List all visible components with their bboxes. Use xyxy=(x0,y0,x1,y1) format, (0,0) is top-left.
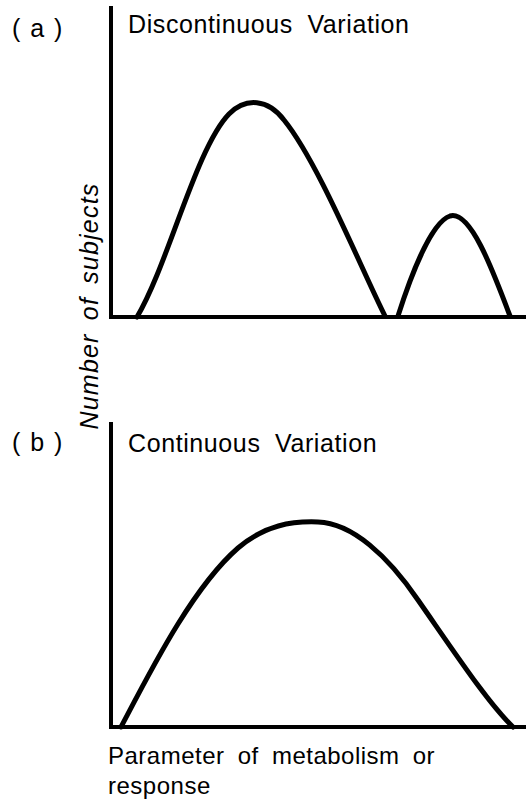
panel-a-minor-mode-curve xyxy=(398,216,510,316)
panel-a-major-mode-curve xyxy=(137,103,385,317)
x-axis-label: Parameter of metabolism or response xyxy=(108,741,518,801)
panel-b-unimodal-curve xyxy=(121,522,513,727)
figure-container: ( a ) Discontinuous Variation ( b ) Cont… xyxy=(0,0,526,803)
plot-canvas xyxy=(0,0,526,803)
x-axis-label-line-1: Parameter of metabolism or xyxy=(108,741,518,771)
x-axis-label-line-2: response xyxy=(108,771,518,801)
